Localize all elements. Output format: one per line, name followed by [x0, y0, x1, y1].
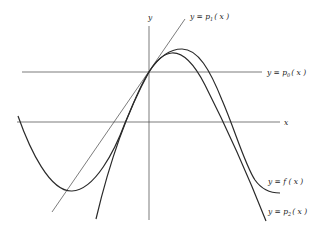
y-axis-label: y: [147, 13, 153, 22]
f-label: y = f ( x ): [267, 177, 303, 186]
p1-line: [52, 19, 185, 212]
p2-label: y = p2( x ): [267, 207, 307, 217]
p0-label: y = p0( x ): [266, 68, 306, 78]
p2-curve: [96, 53, 266, 221]
taylor-approximation-diagram: y x y = p1( x ) y = p0( x ) y = f ( x ) …: [0, 0, 316, 236]
diagram-canvas: y x y = p1( x ) y = p0( x ) y = f ( x ) …: [0, 0, 316, 236]
p1-label: y = p1( x ): [189, 12, 229, 22]
x-axis-label: x: [284, 118, 289, 127]
